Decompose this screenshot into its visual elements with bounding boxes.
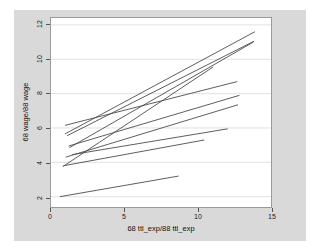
x-tick-mark bbox=[272, 208, 273, 212]
y-tick-label: 4 bbox=[36, 161, 44, 165]
data-line-line-3 bbox=[63, 67, 213, 167]
data-line-line-10 bbox=[67, 41, 254, 136]
data-line-line-2 bbox=[69, 42, 253, 148]
y-tick-mark bbox=[46, 59, 50, 60]
y-tick-mark bbox=[46, 24, 50, 25]
y-tick-mark bbox=[46, 93, 50, 94]
data-line-line-9 bbox=[60, 176, 179, 197]
data-lines bbox=[60, 32, 255, 197]
x-tick-label: 5 bbox=[122, 213, 126, 221]
y-tick-label: 6 bbox=[36, 126, 44, 130]
plot-svg bbox=[51, 18, 271, 207]
x-tick-label: 0 bbox=[48, 213, 52, 221]
x-tick-mark bbox=[124, 208, 125, 212]
x-tick-label: 10 bbox=[194, 213, 202, 221]
y-tick-label: 2 bbox=[36, 196, 44, 200]
y-tick-label: 12 bbox=[36, 20, 44, 28]
x-tick-mark bbox=[198, 208, 199, 212]
x-tick-mark bbox=[50, 208, 51, 212]
x-tick-label: 15 bbox=[268, 213, 276, 221]
y-tick-mark bbox=[46, 128, 50, 129]
y-tick-mark bbox=[46, 198, 50, 199]
x-axis-title: 68 ttl_exp/88 ttl_exp bbox=[50, 224, 272, 233]
y-tick-label: 8 bbox=[36, 91, 44, 95]
y-axis-title: 68 wage/88 wage bbox=[21, 83, 30, 142]
figure-panel: 051015 24681012 68 ttl_exp/88 ttl_exp 68… bbox=[14, 10, 306, 241]
y-tick-mark bbox=[46, 163, 50, 164]
plot-area bbox=[50, 17, 272, 208]
y-tick-label: 10 bbox=[36, 55, 44, 63]
